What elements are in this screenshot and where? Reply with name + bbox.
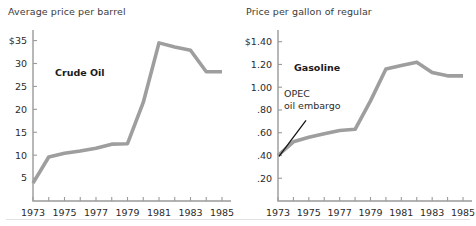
x-tick-label: 1985 — [451, 207, 475, 218]
y-tick-label: .80 — [257, 104, 272, 115]
axis-lines-gasoline — [278, 30, 472, 201]
y-tick-label: 30 — [15, 58, 27, 69]
x-tick-label: 1973 — [266, 207, 290, 218]
annotation-line-1: OPEC — [284, 88, 341, 100]
series-label-gasoline: Gasoline — [294, 62, 340, 73]
crude-oil-plot-svg: $3530252015105 1973197519771979198119831… — [0, 0, 238, 226]
y-tick-label: .40 — [257, 150, 272, 161]
x-tick-label: 1973 — [21, 207, 45, 218]
axis-ticks-crude — [33, 41, 222, 201]
annotation-opec-oil-embargo: OPEC oil embargo — [284, 88, 341, 111]
y-axis-tick-labels-gasoline: $1.401.201.00.80.60.40.20 — [245, 36, 272, 184]
x-tick-label: 1983 — [420, 207, 444, 218]
y-tick-label: $1.40 — [245, 36, 272, 47]
x-tick-label: 1977 — [328, 207, 352, 218]
y-axis-tick-labels-crude: $3530252015105 — [9, 35, 27, 184]
x-axis-tick-labels-crude: 1973197519771979198119831985 — [21, 207, 234, 218]
x-tick-label: 1975 — [297, 207, 321, 218]
gasoline-plot-svg: $1.401.201.00.80.60.40.20 19731975197719… — [238, 0, 476, 226]
x-tick-label: 1981 — [147, 207, 171, 218]
x-tick-label: 1983 — [178, 207, 202, 218]
x-tick-label: 1977 — [84, 207, 108, 218]
y-tick-label: 1.20 — [251, 59, 272, 70]
x-tick-label: 1979 — [115, 207, 139, 218]
chart-panel-gasoline: Price per gallon of regular Gasoline OPE… — [238, 0, 476, 226]
x-tick-label: 1981 — [389, 207, 413, 218]
y-tick-label: 20 — [15, 104, 27, 115]
y-tick-label: 25 — [15, 81, 27, 92]
x-axis-tick-labels-gasoline: 1973197519771979198119831985 — [266, 207, 475, 218]
axis-lines-crude — [33, 30, 231, 201]
two-panel-line-chart-figure: Average price per barrel Crude Oil $3530… — [0, 0, 476, 226]
data-line-crude-oil — [33, 43, 222, 183]
y-tick-label: .60 — [257, 127, 272, 138]
y-tick-label: 5 — [21, 172, 27, 183]
chart-panel-crude-oil: Average price per barrel Crude Oil $3530… — [0, 0, 238, 226]
series-label-crude-oil: Crude Oil — [55, 67, 105, 78]
chart-title-crude-oil: Average price per barrel — [8, 6, 126, 17]
annotation-line-2: oil embargo — [284, 100, 341, 112]
y-tick-label: 1.00 — [251, 82, 272, 93]
footer-divider — [6, 219, 470, 220]
chart-title-gasoline: Price per gallon of regular — [246, 6, 372, 17]
x-tick-label: 1985 — [210, 207, 234, 218]
y-tick-label: .20 — [257, 173, 272, 184]
y-tick-label: 15 — [15, 127, 27, 138]
y-tick-label: $35 — [9, 35, 27, 46]
y-tick-label: 10 — [15, 150, 27, 161]
x-tick-label: 1979 — [358, 207, 382, 218]
x-tick-label: 1975 — [52, 207, 76, 218]
